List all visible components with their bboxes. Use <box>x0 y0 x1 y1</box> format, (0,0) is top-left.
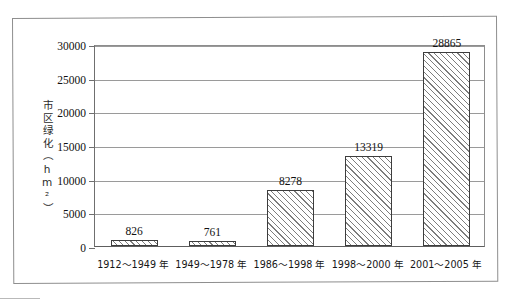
y-axis-tick <box>89 214 95 215</box>
bar-value-label: 761 <box>204 226 221 238</box>
y-axis-tick-label: 15000 <box>57 141 86 153</box>
y-axis-tick-label: 10000 <box>57 175 86 187</box>
y-axis-tick-label: 25000 <box>57 74 86 86</box>
x-axis-tick-label: 1912～1949 年 <box>97 257 169 271</box>
bar <box>345 156 392 246</box>
y-axis-tick <box>89 113 95 114</box>
y-axis-tick-label: 0 <box>80 242 86 254</box>
y-axis-tick <box>89 147 95 148</box>
y-axis-tick <box>89 46 95 47</box>
y-axis-tick-label: 20000 <box>57 107 86 119</box>
x-axis-tick-label: 1986～1998 年 <box>254 257 326 271</box>
bar <box>111 240 158 246</box>
x-axis-tick-label: 2001～2005 年 <box>410 257 482 271</box>
bar <box>267 190 314 246</box>
y-axis-label: 市区绿化（hm²） <box>31 100 53 216</box>
bar <box>189 241 236 246</box>
bar-value-label: 13319 <box>354 141 383 153</box>
bar-chart: 市区绿化（hm²） 050001000015000200002500030000… <box>0 0 512 304</box>
y-axis-tick <box>89 80 95 81</box>
x-axis-tick-label: 1998～2000 年 <box>332 257 404 271</box>
plot-area: 0500010000150002000025000300008267618278… <box>94 45 485 247</box>
bar-value-label: 28865 <box>433 37 462 49</box>
y-axis-tick <box>89 248 95 249</box>
y-axis-tick-label: 30000 <box>57 40 86 52</box>
x-axis-tick-label: 1949～1978 年 <box>175 257 247 271</box>
bar-value-label: 8278 <box>279 175 302 187</box>
gridline <box>95 46 484 47</box>
bar-value-label: 826 <box>125 225 142 237</box>
y-axis-tick-label: 5000 <box>63 208 86 220</box>
y-axis-tick <box>89 181 95 182</box>
bar <box>423 52 470 246</box>
